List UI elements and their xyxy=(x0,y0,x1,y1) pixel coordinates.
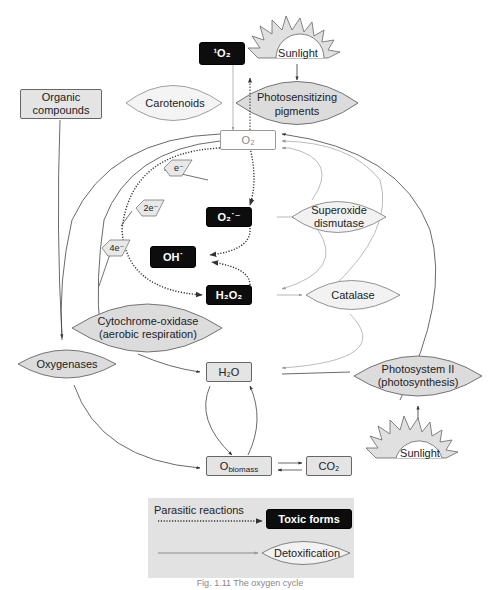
cytochrome-oxidase-label-2: (aerobic respiration) xyxy=(78,328,218,341)
o-biomass-node: Obiomass xyxy=(206,456,272,476)
superoxide-node: O₂˙⁻ xyxy=(206,207,252,227)
photosystem-label-1: Photosystem II xyxy=(358,363,478,376)
photosystem-label-2: (photosynthesis) xyxy=(358,376,478,389)
superoxide-dismutase-label-1: Superoxide xyxy=(296,204,382,217)
electron-1-label: e⁻ xyxy=(168,161,190,175)
water-node: H₂O xyxy=(206,362,252,382)
co2-node: CO₂ xyxy=(306,456,352,476)
legend-toxic-forms: Toxic forms xyxy=(266,509,352,529)
superoxide-dismutase-label-2: dismutase xyxy=(296,217,382,230)
hydroxyl-label: OH˙ xyxy=(163,251,183,264)
cytochrome-oxidase-label-1: Cytochrome-oxidase xyxy=(78,315,218,328)
singlet-oxygen-label: ¹O₂ xyxy=(213,47,230,60)
hydrogen-peroxide-label: H₂O₂ xyxy=(216,289,242,302)
legend-parasitic-label: Parasitic reactions xyxy=(154,504,266,517)
organic-compounds-label-1: Organic xyxy=(42,91,81,104)
o2-label: O₂ xyxy=(242,134,255,147)
catalase-label: Catalase xyxy=(310,288,396,302)
figure-caption: Fig. 1.11 The oxygen cycle xyxy=(0,578,500,588)
legend-detox-label: Detoxification xyxy=(264,546,350,560)
o2-node: O₂ xyxy=(220,130,276,150)
photosensitizing-label-1: Photosensitizing xyxy=(240,90,354,104)
oxygenases-label: Oxygenases xyxy=(20,357,114,371)
water-label: H₂O xyxy=(219,366,240,379)
singlet-oxygen-node: ¹O₂ xyxy=(199,42,245,65)
organic-compounds-label-2: compounds xyxy=(33,104,90,117)
o-biomass-label: O xyxy=(220,460,229,473)
hydrogen-peroxide-node: H₂O₂ xyxy=(206,285,252,305)
o-biomass-subscript: biomass xyxy=(228,463,258,476)
sunlight-bottom-label: Sunlight xyxy=(396,446,444,460)
electron-2-label: 2e⁻ xyxy=(140,201,162,215)
photosensitizing-label-2: pigments xyxy=(240,104,354,118)
legend-toxic-label: Toxic forms xyxy=(278,513,340,526)
co2-label: CO₂ xyxy=(319,460,340,473)
superoxide-label: O₂˙⁻ xyxy=(218,211,241,224)
electron-4-label: 4e⁻ xyxy=(106,241,128,255)
sunlight-top-label: Sunlight xyxy=(274,46,322,60)
organic-compounds-node: Organic compounds xyxy=(20,89,102,119)
hydroxyl-node: OH˙ xyxy=(150,246,196,268)
carotenoids-label: Carotenoids xyxy=(130,96,220,110)
